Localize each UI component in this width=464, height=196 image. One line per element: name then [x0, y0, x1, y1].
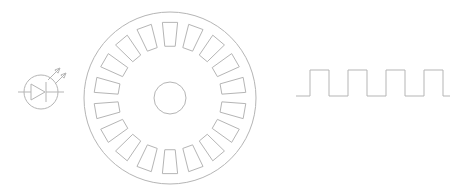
wheel-slot-18 [137, 24, 157, 51]
encoder-diagram-canvas: Optical rotary encoder principle [0, 0, 464, 196]
encoder-wheel-group [84, 12, 256, 184]
diode-triangle-icon [31, 84, 45, 100]
wheel-slot-13 [101, 119, 128, 142]
diagram-svg-layer [0, 0, 464, 196]
wheel-hub-circle [154, 82, 186, 114]
emitter-symbol-group [18, 68, 66, 109]
waveform-group [296, 70, 450, 96]
optical-encoder-diagram [0, 0, 464, 196]
wheel-slot-14 [94, 102, 120, 119]
wheel-slot-7 [212, 119, 239, 142]
wheel-slot-15 [94, 77, 120, 94]
wheel-slot-8 [199, 134, 224, 161]
emission-arrow-1-shaft [48, 68, 60, 80]
wheel-slot-17 [116, 35, 141, 62]
wheel-slot-3 [199, 35, 224, 62]
wheel-outer-rim [84, 12, 256, 184]
output-square-wave-path [296, 70, 450, 96]
wheel-slot-11 [137, 145, 157, 172]
wheel-slot-4 [212, 54, 239, 77]
wheel-slot-6 [220, 102, 246, 119]
wheel-slot-1 [162, 22, 177, 46]
wheel-slot-2 [183, 24, 203, 51]
wheel-slot-12 [116, 134, 141, 161]
wheel-slot-16 [101, 54, 128, 77]
wheel-slot-10 [162, 150, 177, 174]
wheel-slot-5 [220, 77, 246, 94]
wheel-slot-9 [183, 145, 203, 172]
